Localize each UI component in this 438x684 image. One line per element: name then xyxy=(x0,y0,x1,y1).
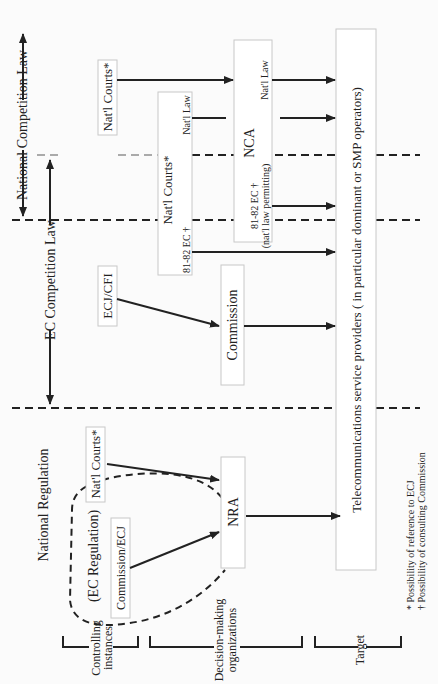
natl-courts-reg-label: Nat'l Courts* xyxy=(88,429,103,498)
target-label: Telecommunications service providers ( i… xyxy=(349,87,364,513)
ec-regulation-label: (EC Regulation) xyxy=(86,510,102,602)
row-label-decision-2: organizations xyxy=(225,607,239,672)
nra-label: NRA xyxy=(226,496,241,526)
edge-natl-courts-to-nra xyxy=(107,464,219,480)
ec-competition-law-label: EC Competition Law xyxy=(43,219,58,340)
bracket-target-b xyxy=(366,636,401,647)
bracket-controlling-a xyxy=(63,636,89,647)
nca-natl-law-label: Nat'l Law xyxy=(259,60,270,100)
row-label-controlling-2: instances xyxy=(101,626,115,670)
regulatory-framework-diagram: National Competition Law EC Competition … xyxy=(0,0,438,684)
natl-courts-mid-ec-label: 81-82 EC † xyxy=(181,227,192,273)
natl-courts-mid-natl-law-label: Nat'l Law xyxy=(181,95,192,135)
edge-ecj-cfi-to-commission xyxy=(117,299,219,326)
national-competition-law-label: National Competition Law xyxy=(15,49,30,200)
natl-courts-top-label: Nat'l Courts* xyxy=(100,62,115,131)
row-label-decision-1: Decision-making xyxy=(212,599,226,682)
bracket-target-a xyxy=(315,636,358,647)
bracket-controlling-b xyxy=(113,636,138,647)
nca-label: NCA xyxy=(242,127,257,157)
commission-label: Commission xyxy=(225,290,240,361)
national-regulation-label: National Regulation xyxy=(36,448,51,561)
bracket-decision-b xyxy=(240,636,302,647)
ecj-cfi-label: ECJ/CFI xyxy=(100,273,115,319)
commission-ecj-label: Commission/ECJ xyxy=(114,526,128,610)
edge-commission-ecj-to-nra xyxy=(130,532,219,568)
nca-ec-label: 81-82 EC † xyxy=(249,183,260,229)
row-label-target: Target xyxy=(353,634,367,665)
footnote-star: * Possibility of reference to ECJ xyxy=(405,480,416,610)
footnote-dagger: † Possibility of consulting Commission xyxy=(416,452,427,610)
natl-courts-mid-label: Nat'l Courts* xyxy=(160,155,175,224)
bracket-decision-a xyxy=(150,636,214,647)
nca-ec-note: (nat'l law permitting) xyxy=(260,164,272,249)
